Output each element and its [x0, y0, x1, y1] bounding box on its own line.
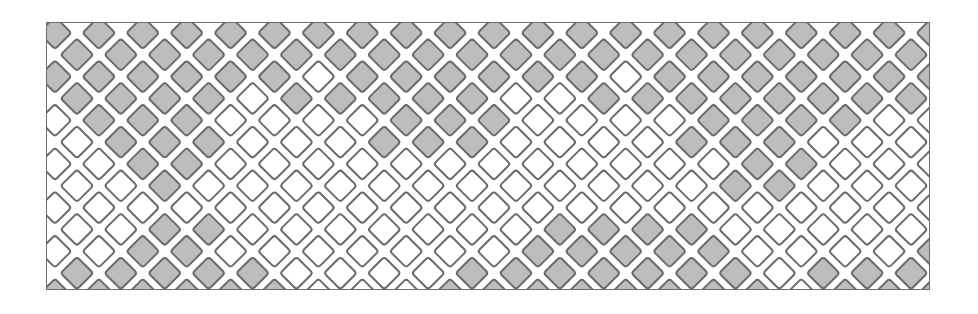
diamond-lattice-svg: [47, 23, 929, 289]
pattern-frame: [46, 22, 930, 290]
pattern-canvas: [0, 0, 978, 314]
